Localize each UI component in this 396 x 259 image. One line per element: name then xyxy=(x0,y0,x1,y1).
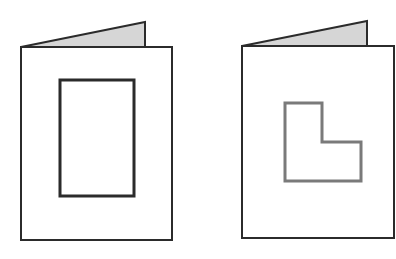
card-right-front-panel xyxy=(242,46,394,238)
card-left-back-flap xyxy=(21,22,145,47)
card-right xyxy=(242,21,394,238)
card-right-back-flap xyxy=(242,21,367,46)
greeting-cards-diagram xyxy=(0,0,396,259)
card-left-front-panel xyxy=(21,47,172,240)
card-left xyxy=(21,22,172,240)
